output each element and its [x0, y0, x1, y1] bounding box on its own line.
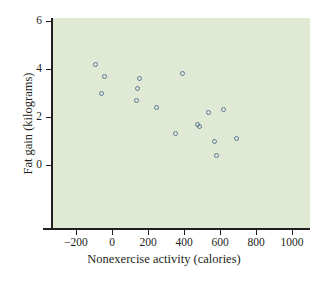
x-tick-label: 0 — [92, 237, 132, 249]
y-axis-line — [51, 18, 53, 229]
data-point — [154, 105, 159, 110]
x-tick — [76, 230, 77, 235]
data-point — [134, 98, 139, 103]
data-point — [234, 136, 239, 141]
x-tick — [148, 230, 149, 235]
data-point — [99, 91, 104, 96]
y-tick — [46, 165, 51, 166]
x-tick — [112, 230, 113, 235]
x-tick — [220, 230, 221, 235]
scatter-plot-figure: 0246 −20002004006008001000 Nonexercise a… — [0, 0, 328, 287]
y-axis-title: Fat gain (kilograms) — [21, 44, 36, 204]
data-point — [102, 74, 107, 79]
plot-area — [53, 18, 310, 228]
x-axis-title: Nonexercise activity (calories) — [0, 252, 328, 267]
x-tick — [184, 230, 185, 235]
x-tick-label: 1000 — [272, 237, 312, 249]
y-tick-label: 6 — [30, 15, 42, 27]
x-tick — [256, 230, 257, 235]
x-tick-label: −200 — [56, 237, 96, 249]
y-tick — [46, 117, 51, 118]
data-point — [212, 139, 217, 144]
x-tick-label: 400 — [164, 237, 204, 249]
data-point — [135, 86, 140, 91]
x-tick-label: 200 — [128, 237, 168, 249]
x-tick-label: 800 — [236, 237, 276, 249]
x-tick — [292, 230, 293, 235]
x-tick-label: 600 — [200, 237, 240, 249]
data-point — [93, 62, 98, 67]
data-point — [137, 76, 142, 81]
y-tick — [46, 69, 51, 70]
y-tick — [46, 21, 51, 22]
data-point — [206, 110, 211, 115]
data-point — [214, 153, 219, 158]
x-axis-line — [43, 228, 310, 230]
